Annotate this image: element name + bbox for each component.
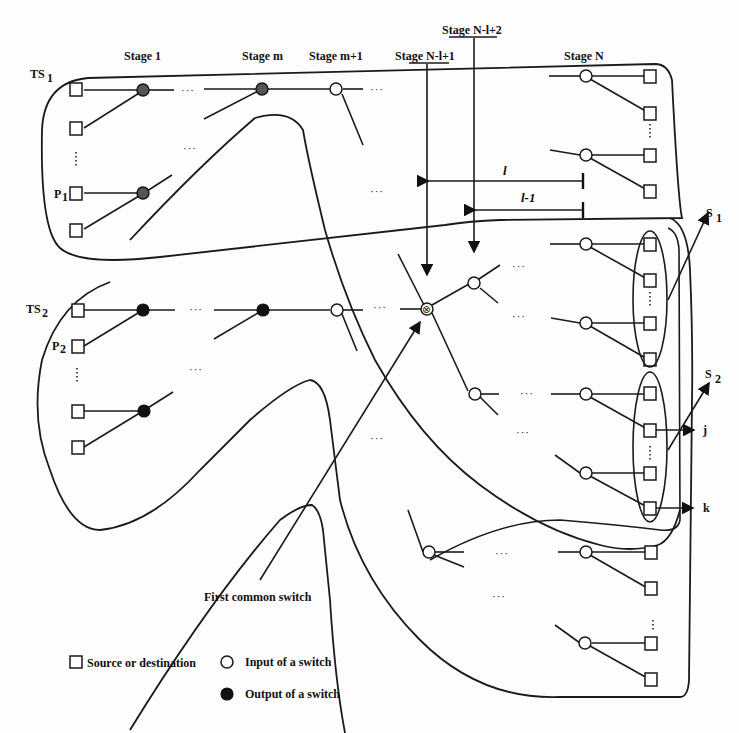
ts1-label: TS [30, 67, 45, 81]
p2-label: P [52, 339, 59, 353]
first-common-switch-group: ⊗ [398, 254, 500, 415]
ts1-subscript: 1 [47, 71, 53, 85]
ts1-source-2 [70, 122, 82, 135]
ts2-stage-m1-input-switch [331, 304, 343, 316]
s2-subscript: 2 [715, 372, 721, 386]
svg-text:⊗: ⊗ [422, 304, 430, 315]
l-label: l [503, 163, 507, 178]
p1-subscript: 1 [62, 190, 68, 204]
first-common-switch-pointer [260, 322, 420, 580]
s1-subscript: 1 [716, 211, 722, 225]
input-switch-legend-icon [221, 656, 233, 668]
s2-label: S [705, 367, 712, 381]
ts1-stage1-switches [70, 83, 174, 237]
ellipsis: ··· [183, 142, 197, 154]
ts2-label: TS [26, 302, 41, 316]
s1-pointer [668, 213, 708, 300]
stage-m1-label: Stage m+1 [309, 49, 363, 63]
bottom-stage-switches [408, 510, 657, 686]
ellipsis: ··· [520, 387, 534, 399]
legend-output-switch: Output of a switch [245, 687, 340, 701]
ts2-stage-m-output-switch [257, 304, 269, 316]
first-common-switch-label: First common switch [204, 590, 312, 604]
l-minus-1-label: l-1 [521, 190, 535, 205]
ts1-stage-m1-input-switch [330, 83, 342, 95]
ts2-stage1-output-switch-2 [138, 405, 150, 417]
ts1-source-4 [70, 224, 82, 237]
ellipsis: ··· [181, 84, 195, 96]
ellipsis: ··· [512, 310, 526, 322]
legend: Source or destination Input of a switch … [70, 655, 340, 701]
stage-1-label: Stage 1 [124, 49, 161, 63]
stage-n-s1-switches [550, 231, 667, 367]
s2-pointer [668, 383, 709, 450]
j-label: j [702, 423, 707, 437]
p2-source [72, 340, 84, 353]
s1-label: S [706, 206, 713, 220]
stage-n-l2-label: Stage N-l+2 [442, 23, 502, 37]
ellipsis: ··· [492, 590, 506, 602]
stage-m-label: Stage m [242, 49, 283, 63]
ts1-stage-m-switch [204, 83, 363, 145]
stage-n-s2-switches [551, 372, 667, 522]
ts1-inner-curve [130, 115, 680, 549]
ellipsis: ··· [370, 432, 384, 444]
stage-n-label: Stage N [564, 49, 604, 63]
ts2-source-1 [72, 304, 84, 317]
ellipsis: ··· [512, 260, 526, 272]
ellipsis: ··· [516, 426, 530, 438]
ellipsis: ··· [189, 303, 203, 315]
ts2-subscript: 2 [42, 306, 48, 320]
stage-n-l1-label: Stage N-l+1 [395, 49, 455, 63]
source-destination-legend-icon [70, 656, 82, 668]
output-switch-legend-icon [221, 688, 233, 700]
ts2-group-outline [38, 218, 693, 697]
ellipsis: ··· [189, 363, 203, 375]
ellipsis: ··· [370, 83, 384, 95]
ts2-stage1-output-switch [137, 304, 149, 316]
k-label: k [703, 501, 710, 515]
multistage-network-diagram: Stage 1 Stage m Stage m+1 Stage N-l+1 St… [0, 0, 739, 733]
ellipsis: ··· [495, 547, 509, 559]
p1-label: P [54, 187, 61, 201]
ts2-stage1-switches [72, 304, 175, 454]
ts2-stage-m-switch [214, 304, 363, 351]
legend-source-destination: Source or destination [87, 656, 196, 670]
ts1-source-1 [70, 83, 82, 96]
ts1-stage-n-switches [549, 70, 656, 198]
legend-input-switch: Input of a switch [245, 655, 332, 669]
ellipsis: ··· [370, 185, 384, 197]
p2-subscript: 2 [60, 342, 66, 356]
ts1-stage1-output-switch [137, 84, 149, 96]
p1-stage1-output-switch [137, 187, 149, 199]
ts1-stage-m-output-switch [256, 83, 268, 95]
ellipsis: ··· [373, 301, 387, 313]
ts2-source-4 [72, 441, 84, 454]
ts2-source-3 [72, 405, 84, 418]
p1-source [70, 187, 82, 200]
